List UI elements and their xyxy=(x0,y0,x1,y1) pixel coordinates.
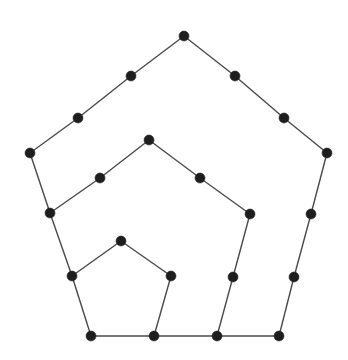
edge-n17-n21 xyxy=(217,277,233,336)
node-n19 xyxy=(86,331,96,341)
node-n18 xyxy=(289,272,299,282)
node-n8 xyxy=(144,135,154,145)
edge-layer xyxy=(30,36,327,336)
node-n9 xyxy=(95,173,105,183)
edge-n10-n12 xyxy=(200,178,250,214)
node-n11 xyxy=(45,208,55,218)
node-n10 xyxy=(195,173,205,183)
node-n13 xyxy=(306,209,316,219)
node-n3 xyxy=(73,113,83,123)
node-n15 xyxy=(67,271,77,281)
node-n16 xyxy=(166,271,176,281)
edge-n7-n13 xyxy=(311,153,327,214)
nested-pentagon-graph xyxy=(0,0,348,360)
node-n2 xyxy=(126,71,136,81)
edge-n1-n5 xyxy=(184,36,235,76)
node-n17 xyxy=(228,272,238,282)
edge-n6-n7 xyxy=(284,118,327,153)
node-layer xyxy=(25,31,332,341)
node-n21 xyxy=(212,331,222,341)
node-n5 xyxy=(230,71,240,81)
edge-n4-n11 xyxy=(30,153,50,213)
edge-n11-n9 xyxy=(50,178,100,213)
node-n14 xyxy=(116,236,126,246)
edge-n5-n6 xyxy=(235,76,284,118)
edge-n15-n14 xyxy=(72,241,121,276)
edge-n2-n3 xyxy=(78,76,131,118)
node-n22 xyxy=(274,331,284,341)
node-n12 xyxy=(245,209,255,219)
edge-n11-n15 xyxy=(50,213,72,276)
edge-n16-n20 xyxy=(154,276,171,336)
node-n1 xyxy=(179,31,189,41)
node-n7 xyxy=(322,148,332,158)
edge-n18-n22 xyxy=(279,277,294,336)
edge-n15-n19 xyxy=(72,276,91,336)
edge-n8-n10 xyxy=(149,140,200,178)
node-n4 xyxy=(25,148,35,158)
edge-n14-n16 xyxy=(121,241,171,276)
edge-n9-n8 xyxy=(100,140,149,178)
node-n6 xyxy=(279,113,289,123)
edge-n3-n4 xyxy=(30,118,78,153)
edge-n12-n17 xyxy=(233,214,250,277)
edge-n1-n2 xyxy=(131,36,184,76)
node-n20 xyxy=(149,331,159,341)
edge-n13-n18 xyxy=(294,214,311,277)
